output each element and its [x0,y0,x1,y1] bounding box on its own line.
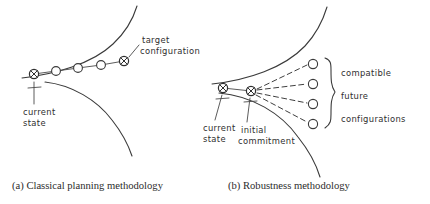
panel-b-current-leader [215,95,229,120]
panel-b-future-branch-4 [256,95,307,122]
panel-a-node-target-configuration [119,56,128,65]
panel-a-target-label-line2: configuration [140,46,200,56]
panel-b-upper-curve [212,7,327,84]
panel-a-target-label-line1: target [142,35,170,45]
panel-a-current-label-line1: current [23,107,56,117]
figure-container: target configuration current state [0,0,430,204]
panel-b-initial-label-line1: initial [241,125,266,135]
panel-b-initial-leader [244,98,257,122]
panel-b-node-future-2 [308,79,317,88]
panel-b-node-future-1 [308,59,317,68]
panel-b-node-future-3 [308,99,317,108]
panel-a-current-leader [28,82,41,104]
panel-b-node-current-state [218,83,227,92]
panel-b-brace-label-line2: future [341,91,368,101]
panel-b-current-label-line1: current [203,123,236,133]
panel-b-node-initial-commitment [246,86,255,95]
panel-b-drawing: current state initial commitment compati… [203,7,406,177]
panel-a-node-step-3 [97,61,106,70]
panel-b-initial-label-line2: commitment [238,136,295,146]
figure-drawing: target configuration current state [0,0,430,204]
panel-b-caption: (b) Robustness methodology [228,180,350,191]
panel-b-lower-curve [219,93,320,177]
panel-b-brace [325,58,335,128]
panel-a-caption: (a) Classical planning methodology [12,180,163,191]
panel-b-node-future-4 [308,119,317,128]
panel-b-current-label-line2: state [203,134,226,144]
panel-a-node-step-1 [52,67,61,76]
panel-b-brace-label-line3: configurations [341,114,406,124]
panel-a-node-step-2 [74,64,83,73]
panel-b-brace-label-line1: compatible [341,68,391,78]
panel-a-node-current-state [29,69,38,78]
panel-a-lower-curve [45,82,132,156]
panel-b-future-branch-3 [257,93,307,103]
panel-a-drawing: target configuration current state [22,6,200,156]
panel-a-target-leader [129,45,139,57]
panel-a-current-label-line2: state [23,118,46,128]
